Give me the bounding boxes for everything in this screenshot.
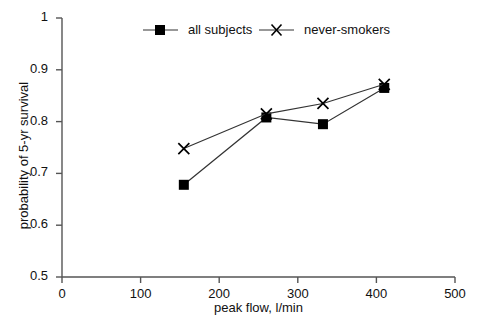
- series-line: [184, 84, 384, 148]
- x-axis-ticks: [62, 277, 455, 283]
- data-point-marker: [318, 119, 328, 129]
- y-tick-label: 0.5: [8, 268, 48, 283]
- x-tick-label: 500: [430, 286, 480, 301]
- line-chart-plot: [0, 0, 480, 323]
- series-layer: [178, 79, 389, 190]
- y-axis-ticks: [56, 18, 62, 277]
- x-tick-label: 400: [351, 286, 401, 301]
- x-tick-label: 300: [273, 286, 323, 301]
- legend-label-all-subjects: all subjects: [188, 22, 252, 37]
- series-never-smokers: [178, 79, 389, 154]
- data-point-marker: [178, 143, 189, 154]
- x-axis-title: peak flow, l/min: [62, 300, 455, 315]
- chart-figure: all subjects never-smokers probability o…: [0, 0, 480, 323]
- series-all-subjects: [179, 83, 389, 190]
- data-point-marker: [317, 98, 328, 109]
- y-tick-label: 0.9: [8, 61, 48, 76]
- data-point-marker: [179, 180, 189, 190]
- x-tick-label: 0: [37, 286, 87, 301]
- y-tick-label: 0.6: [8, 216, 48, 231]
- x-tick-label: 100: [116, 286, 166, 301]
- x-tick-label: 200: [194, 286, 244, 301]
- legend-marker-all-subjects: [143, 25, 178, 35]
- y-tick-label: 0.7: [8, 164, 48, 179]
- y-tick-label: 0.8: [8, 113, 48, 128]
- legend-marker-never-smokers: [259, 25, 294, 36]
- legend-label-never-smokers: never-smokers: [304, 22, 390, 37]
- axis-lines: [62, 18, 455, 277]
- y-tick-label: 1: [8, 9, 48, 24]
